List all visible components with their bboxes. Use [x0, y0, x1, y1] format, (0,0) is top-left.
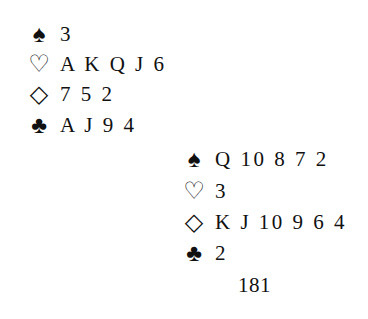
page-number: 181 — [238, 273, 271, 298]
suit-row-diamonds: ◇ K J 10 9 6 4 — [183, 207, 347, 237]
suit-row-hearts: ♡ 3 — [183, 176, 228, 206]
heart-icon: ♡ — [183, 179, 205, 203]
card-list: 2 — [215, 243, 228, 264]
card-list: A J 9 4 — [60, 115, 136, 136]
card-list: 3 — [215, 181, 228, 202]
diamond-icon: ◇ — [183, 210, 205, 234]
club-icon: ♣ — [183, 241, 205, 265]
diamond-icon: ◇ — [28, 82, 50, 106]
suit-row-clubs: ♣ A J 9 4 — [28, 110, 136, 140]
spade-icon: ♠ — [28, 22, 50, 46]
card-list: A K Q J 6 — [60, 54, 167, 75]
suit-row-diamonds: ◇ 7 5 2 — [28, 79, 115, 109]
heart-icon: ♡ — [28, 52, 50, 76]
suit-row-spades: ♠ 3 — [28, 19, 73, 49]
card-list: K J 10 9 6 4 — [215, 212, 347, 233]
suit-row-hearts: ♡ A K Q J 6 — [28, 49, 167, 79]
suit-row-spades: ♠ Q 10 8 7 2 — [183, 144, 329, 174]
card-list: 3 — [60, 24, 73, 45]
spade-icon: ♠ — [183, 147, 205, 171]
suit-row-clubs: ♣ 2 — [183, 238, 228, 268]
card-list: 7 5 2 — [60, 84, 115, 105]
club-icon: ♣ — [28, 113, 50, 137]
card-list: Q 10 8 7 2 — [215, 149, 329, 170]
